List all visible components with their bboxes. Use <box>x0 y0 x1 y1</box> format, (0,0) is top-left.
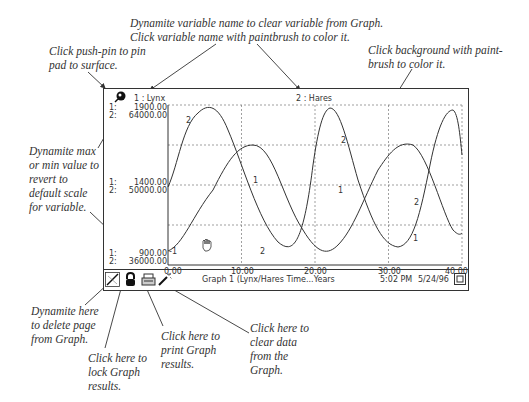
variable-2-label[interactable]: 2 : Hares <box>296 94 332 103</box>
callout-print: Click here to print Graph results. <box>161 329 220 371</box>
clear-data-wand-icon[interactable] <box>157 272 172 287</box>
printer-icon[interactable] <box>141 272 156 287</box>
lock-icon[interactable] <box>123 272 138 287</box>
scale-mid-var2-value: 50000.00 <box>129 186 167 195</box>
scale-max[interactable]: 1: 1900.00 2: 64000.00 <box>109 103 167 123</box>
svg-text:1: 1 <box>413 234 418 243</box>
page-turn-dynamite-icon[interactable] <box>105 272 120 287</box>
graph-date: 5/24/96 <box>418 275 449 284</box>
graph-pad-window: 1 : Lynx 2 : Hares 1: 1900.00 2: 64000.0… <box>103 88 469 291</box>
callout-variable-name: Dynamite variable name to clear variable… <box>130 16 383 44</box>
variable-1-label[interactable]: 1 : Lynx <box>134 94 165 103</box>
svg-text:1: 1 <box>253 176 258 185</box>
plot-area[interactable]: 2-1 12 12 21 <box>168 105 462 265</box>
push-pin-icon[interactable] <box>114 91 126 103</box>
svg-text:2: 2 <box>186 116 191 125</box>
svg-text:2: 2 <box>414 198 419 207</box>
graph-title: Graph 1 (Lynx/Hares Time...Years <box>202 275 335 284</box>
scale-min-var2-index: 2: <box>109 257 117 266</box>
scale-mid-var2-index: 2: <box>109 186 117 195</box>
graph-footer: Graph 1 (Lynx/Hares Time...Years 5:02 PM… <box>104 269 468 290</box>
svg-text:2: 2 <box>260 247 265 256</box>
callout-delete-page: Dynamite here to delete page from Graph. <box>31 304 99 346</box>
hand-cursor-icon <box>203 239 211 251</box>
svg-text:-1: -1 <box>169 247 177 256</box>
svg-text:2: 2 <box>341 136 346 145</box>
scale-mid: 1: 1400.00 2: 50000.00 <box>109 178 167 198</box>
scale-max-var2-index: 2: <box>109 111 117 120</box>
scale-max-var2-value[interactable]: 64000.00 <box>129 111 167 120</box>
svg-text:1: 1 <box>338 186 343 195</box>
scale-min-var2-value[interactable]: 36000.00 <box>129 257 167 266</box>
resize-box-icon[interactable] <box>454 273 466 285</box>
callout-scale: Dynamite max or min value to revert to d… <box>29 144 99 214</box>
scale-min[interactable]: 1: 900.00 2: 36000.00 <box>109 249 167 269</box>
callout-clear: Click here to clear data from the Graph. <box>250 321 309 377</box>
graph-time: 5:02 PM <box>380 275 412 284</box>
callout-push-pin: Click push-pin to pin pad to surface. <box>49 44 146 72</box>
callout-background: Click background with paint- brush to co… <box>368 43 503 71</box>
callout-lock: Click here to lock Graph results. <box>88 351 147 393</box>
